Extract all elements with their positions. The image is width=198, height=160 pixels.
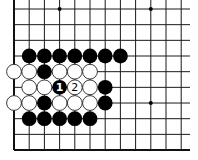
black-stone: [37, 49, 52, 64]
black-stone: [83, 111, 98, 126]
black-stone-move-1: 1: [52, 80, 67, 95]
white-stone-move-2: 2: [67, 80, 82, 95]
white-stone: [52, 96, 67, 111]
white-stone: [83, 80, 98, 95]
white-stone-icon: [67, 64, 82, 79]
white-stone-icon: [83, 80, 98, 95]
white-stone: [22, 64, 37, 79]
black-stone-icon: [52, 111, 67, 126]
white-stone: [67, 96, 82, 111]
black-stone: [98, 49, 113, 64]
black-stone-icon: [22, 111, 37, 126]
move-number-label: 1: [56, 81, 64, 94]
black-stone-icon: [83, 111, 98, 126]
black-stone-icon: [113, 49, 128, 64]
white-stone: [83, 96, 98, 111]
black-stone: [67, 111, 82, 126]
white-stone-icon: [52, 96, 67, 111]
black-stone-icon: [67, 49, 82, 64]
go-board-diagram: 12: [0, 0, 198, 160]
stones: 12: [7, 49, 128, 126]
black-stone: [37, 111, 52, 126]
black-stone: [98, 80, 113, 95]
white-stone-icon: [22, 80, 37, 95]
black-stone: [22, 111, 37, 126]
black-stone-icon: [52, 49, 67, 64]
white-stone-icon: [37, 80, 52, 95]
black-stone: [52, 111, 67, 126]
move-number-label: 2: [71, 81, 78, 94]
black-stone-icon: [37, 64, 52, 79]
black-stone-icon: [37, 49, 52, 64]
black-stone-icon: [83, 49, 98, 64]
black-stone: [83, 49, 98, 64]
white-stone: [37, 80, 52, 95]
black-stone: [22, 49, 37, 64]
white-stone: [7, 96, 22, 111]
black-stone: [37, 96, 52, 111]
white-stone-icon: [83, 64, 98, 79]
black-stone-icon: [98, 96, 113, 111]
white-stone: [7, 64, 22, 79]
black-stone-icon: [98, 49, 113, 64]
white-stone-icon: [7, 96, 22, 111]
white-stone-icon: [22, 96, 37, 111]
white-stone: [67, 64, 82, 79]
black-stone-icon: [22, 49, 37, 64]
black-stone: [52, 49, 67, 64]
black-stone: [37, 64, 52, 79]
black-stone: [113, 49, 128, 64]
black-stone: [98, 96, 113, 111]
white-stone: [52, 64, 67, 79]
white-stone: [22, 96, 37, 111]
black-stone: [67, 49, 82, 64]
black-stone-icon: [67, 111, 82, 126]
white-stone-icon: [52, 64, 67, 79]
white-stone-icon: [7, 64, 22, 79]
white-stone-icon: [67, 96, 82, 111]
star-point-icon: [149, 7, 153, 11]
white-stone: [83, 64, 98, 79]
star-point-icon: [58, 7, 62, 11]
black-stone-icon: [98, 80, 113, 95]
white-stone-icon: [22, 64, 37, 79]
black-stone-icon: [37, 111, 52, 126]
black-stone-icon: [37, 96, 52, 111]
white-stone: [22, 80, 37, 95]
star-point-icon: [149, 101, 153, 105]
white-stone-icon: [83, 96, 98, 111]
